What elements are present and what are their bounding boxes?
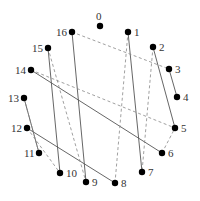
edge-15-10-solid	[48, 48, 60, 173]
node-label-15: 15	[32, 42, 44, 54]
nodes-layer	[21, 23, 180, 186]
node-11	[36, 150, 42, 156]
node-label-2: 2	[159, 41, 165, 53]
node-label-10: 10	[66, 167, 78, 179]
edge-1-7-solid	[128, 32, 142, 172]
labels-layer: 012345678910111213141516	[8, 10, 189, 189]
node-label-12: 12	[11, 122, 22, 134]
node-label-5: 5	[181, 122, 187, 134]
edge-14-6-solid	[31, 70, 162, 153]
node-label-8: 8	[121, 177, 127, 189]
circular-graph-diagram: 012345678910111213141516	[0, 0, 200, 201]
node-2	[150, 44, 156, 50]
node-0	[97, 23, 103, 29]
node-label-3: 3	[175, 63, 181, 75]
edge-15-9-dashed	[48, 48, 86, 182]
node-8	[112, 180, 118, 186]
node-label-6: 6	[168, 147, 174, 159]
node-4	[174, 94, 180, 100]
node-3	[166, 66, 172, 72]
node-label-16: 16	[56, 26, 68, 38]
node-label-0: 0	[96, 10, 102, 22]
node-label-11: 11	[24, 147, 35, 159]
node-label-1: 1	[134, 26, 140, 38]
edge-16-3-dashed	[72, 32, 169, 69]
node-6	[159, 150, 165, 156]
node-13	[21, 95, 27, 101]
edge-16-9-solid	[72, 32, 86, 182]
node-label-7: 7	[148, 166, 154, 178]
edge-1-8-dashed	[115, 32, 128, 183]
node-16	[69, 29, 75, 35]
node-14	[28, 67, 34, 73]
edge-2-7-dashed	[142, 47, 153, 172]
node-label-4: 4	[183, 91, 189, 103]
node-label-13: 13	[8, 92, 20, 104]
node-5	[172, 125, 178, 131]
node-7	[139, 169, 145, 175]
node-9	[83, 179, 89, 185]
edges-layer	[24, 32, 177, 183]
node-1	[125, 29, 131, 35]
node-15	[45, 45, 51, 51]
node-10	[57, 170, 63, 176]
node-label-14: 14	[15, 64, 27, 76]
edge-2-5-solid	[153, 47, 175, 128]
node-label-9: 9	[92, 176, 98, 188]
node-12	[24, 125, 30, 131]
